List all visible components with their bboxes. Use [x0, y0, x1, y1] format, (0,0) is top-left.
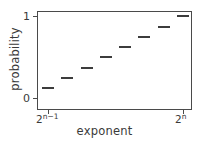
y-axis-label: probability	[8, 11, 22, 107]
x-tick-left-exponent: n−1	[43, 112, 59, 121]
chart-figure: 1 0 2n−1 2n exponent probability	[0, 0, 209, 144]
x-tick-right-exponent: n	[182, 112, 187, 121]
y-tick-mark-0	[33, 98, 37, 99]
data-marker	[100, 56, 112, 58]
data-marker	[158, 26, 170, 28]
data-marker	[61, 77, 73, 79]
y-tick-mark-1	[33, 16, 37, 17]
data-marker	[42, 87, 54, 89]
data-marker	[119, 46, 131, 48]
data-marker	[81, 67, 93, 69]
data-marker	[177, 15, 189, 17]
data-marker	[138, 36, 150, 38]
x-axis-label: exponent	[0, 124, 209, 138]
